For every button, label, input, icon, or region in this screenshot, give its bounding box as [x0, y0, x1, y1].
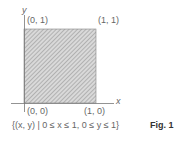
x-axis-label: x [116, 96, 121, 106]
corner-label-bottom-left: (0, 0) [27, 106, 48, 116]
corner-label-top-left: (0, 1) [27, 15, 48, 25]
set-notation-caption: {(x, y) | 0 ≤ x ≤ 1, 0 ≤ y ≤ 1} [12, 120, 119, 130]
figure-label: Fig. 1 [150, 120, 174, 130]
corner-label-bottom-right: (1, 0) [84, 106, 105, 116]
corner-label-top-right: (1, 1) [98, 15, 119, 25]
shaded-region [24, 29, 96, 103]
y-axis-label: y [22, 5, 27, 15]
